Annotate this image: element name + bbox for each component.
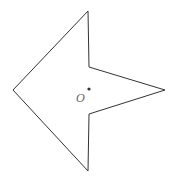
center-label: O <box>76 92 85 105</box>
center-point <box>87 87 90 90</box>
arrow-shape <box>13 11 165 171</box>
diagram-canvas: O <box>0 0 175 187</box>
